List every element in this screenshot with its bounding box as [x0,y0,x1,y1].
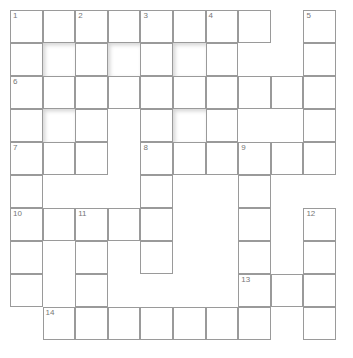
crossword-cell[interactable] [303,307,336,340]
crossword-cell[interactable] [108,10,141,43]
crossword-cell[interactable]: 9 [238,142,271,175]
crossword-cell[interactable] [10,241,43,274]
letter-input[interactable] [174,11,205,42]
letter-input[interactable] [76,110,107,141]
letter-input[interactable] [141,44,172,75]
letter-input[interactable] [239,143,270,174]
letter-input[interactable] [239,308,270,339]
crossword-cell[interactable] [238,76,271,109]
letter-input[interactable] [174,143,205,174]
crossword-cell[interactable]: 5 [303,10,336,43]
crossword-cell[interactable] [238,10,271,43]
letter-input[interactable] [141,209,172,240]
crossword-cell[interactable] [206,76,239,109]
crossword-cell[interactable] [238,307,271,340]
letter-input[interactable] [239,77,270,108]
crossword-cell[interactable] [43,208,76,241]
letter-input[interactable] [11,209,42,240]
crossword-cell[interactable] [43,10,76,43]
crossword-cell[interactable] [140,241,173,274]
crossword-cell[interactable] [271,274,304,307]
letter-input[interactable] [44,11,75,42]
crossword-cell[interactable] [140,76,173,109]
crossword-cell[interactable] [140,208,173,241]
letter-input[interactable] [109,77,140,108]
letter-input[interactable] [109,308,140,339]
letter-input[interactable] [272,77,303,108]
crossword-cell[interactable] [43,142,76,175]
letter-input[interactable] [11,110,42,141]
letter-input[interactable] [11,176,42,207]
letter-input[interactable] [11,275,42,306]
crossword-cell[interactable] [75,43,108,76]
crossword-cell[interactable]: 6 [10,76,43,109]
crossword-cell[interactable]: 2 [75,10,108,43]
crossword-cell[interactable] [173,307,206,340]
crossword-cell[interactable] [303,76,336,109]
letter-input[interactable] [207,308,238,339]
crossword-cell[interactable] [173,10,206,43]
letter-input[interactable] [304,44,335,75]
letter-input[interactable] [44,209,75,240]
crossword-cell[interactable] [238,241,271,274]
crossword-cell[interactable] [173,76,206,109]
crossword-cell[interactable] [206,109,239,142]
letter-input[interactable] [11,242,42,273]
crossword-cell[interactable]: 1 [10,10,43,43]
letter-input[interactable] [109,11,140,42]
letter-input[interactable] [239,176,270,207]
crossword-cell[interactable]: 7 [10,142,43,175]
letter-input[interactable] [141,11,172,42]
letter-input[interactable] [141,176,172,207]
letter-input[interactable] [304,110,335,141]
crossword-cell[interactable] [108,76,141,109]
letter-input[interactable] [304,308,335,339]
crossword-cell[interactable] [140,175,173,208]
letter-input[interactable] [11,44,42,75]
letter-input[interactable] [141,242,172,273]
crossword-cell[interactable] [206,43,239,76]
letter-input[interactable] [207,143,238,174]
letter-input[interactable] [76,143,107,174]
crossword-cell[interactable]: 3 [140,10,173,43]
crossword-cell[interactable] [206,142,239,175]
crossword-cell[interactable] [75,274,108,307]
letter-input[interactable] [304,143,335,174]
letter-input[interactable] [304,11,335,42]
letter-input[interactable] [141,110,172,141]
crossword-cell[interactable] [271,76,304,109]
crossword-cell[interactable] [10,109,43,142]
letter-input[interactable] [304,242,335,273]
letter-input[interactable] [239,275,270,306]
crossword-cell[interactable] [303,241,336,274]
crossword-cell[interactable] [271,142,304,175]
letter-input[interactable] [207,44,238,75]
letter-input[interactable] [304,275,335,306]
letter-input[interactable] [304,209,335,240]
letter-input[interactable] [11,143,42,174]
crossword-cell[interactable] [303,43,336,76]
crossword-cell[interactable]: 13 [238,274,271,307]
crossword-cell[interactable] [303,274,336,307]
crossword-cell[interactable] [140,109,173,142]
letter-input[interactable] [44,143,75,174]
letter-input[interactable] [44,77,75,108]
letter-input[interactable] [272,143,303,174]
crossword-cell[interactable] [10,274,43,307]
crossword-cell[interactable] [173,142,206,175]
crossword-cell[interactable]: 8 [140,142,173,175]
letter-input[interactable] [174,77,205,108]
letter-input[interactable] [207,77,238,108]
crossword-cell[interactable]: 4 [206,10,239,43]
letter-input[interactable] [207,11,238,42]
crossword-cell[interactable]: 12 [303,208,336,241]
crossword-cell[interactable] [75,109,108,142]
letter-input[interactable] [272,275,303,306]
crossword-cell[interactable] [108,208,141,241]
crossword-cell[interactable] [140,307,173,340]
letter-input[interactable] [239,209,270,240]
letter-input[interactable] [174,308,205,339]
crossword-cell[interactable] [10,175,43,208]
letter-input[interactable] [141,143,172,174]
letter-input[interactable] [76,209,107,240]
